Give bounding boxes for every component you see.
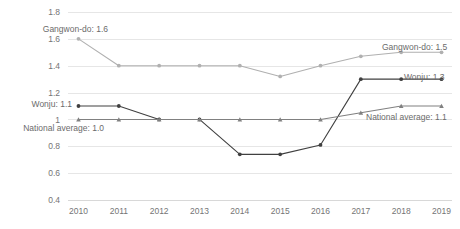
x-axis-tick-label: 2010 bbox=[69, 206, 88, 216]
line-chart: 0.40.60.811.21.41.61.8 20102011201220132… bbox=[0, 0, 460, 229]
y-axis-tick-label: 1.8 bbox=[48, 7, 60, 17]
data-series-group bbox=[76, 37, 444, 156]
y-axis-tick-label: 0.6 bbox=[48, 168, 60, 178]
annotation-national-start: National average: 1.0 bbox=[23, 123, 104, 133]
annotation-wonju-start: Wonju: 1.1 bbox=[32, 99, 73, 109]
data-point-marker bbox=[238, 152, 242, 156]
x-axis-tick-label: 2013 bbox=[190, 206, 209, 216]
y-axis-tick-label: 1.6 bbox=[48, 34, 60, 44]
y-axis-tick-label: 0.8 bbox=[48, 141, 60, 151]
chart-canvas: 0.40.60.811.21.41.61.8 20102011201220132… bbox=[0, 0, 460, 229]
data-point-marker bbox=[117, 104, 121, 108]
data-point-marker bbox=[157, 64, 161, 68]
data-point-marker bbox=[399, 77, 403, 81]
y-axis-tick-label: 1.4 bbox=[48, 61, 60, 71]
x-axis-tick-label: 2016 bbox=[311, 206, 330, 216]
data-point-marker bbox=[278, 152, 282, 156]
data-point-marker bbox=[359, 54, 363, 58]
data-point-marker bbox=[319, 64, 323, 68]
annotation-national-end: National average: 1.1 bbox=[366, 112, 447, 122]
data-point-marker bbox=[278, 75, 282, 79]
data-point-marker bbox=[198, 64, 202, 68]
x-axis-tick-label: 2012 bbox=[150, 206, 169, 216]
data-point-marker bbox=[238, 64, 242, 68]
x-axis-tick-label: 2014 bbox=[230, 206, 249, 216]
annotation-gangwon-start: Gangwon-do: 1.6 bbox=[43, 24, 108, 34]
y-axis-tick-label: 0.4 bbox=[48, 195, 60, 205]
data-point-marker bbox=[319, 143, 323, 147]
x-axis-tick-label: 2011 bbox=[110, 206, 129, 216]
x-axis-tick-label: 2015 bbox=[271, 206, 290, 216]
annotations-group: Gangwon-do: 1.6Wonju: 1.1National averag… bbox=[23, 24, 447, 133]
x-axis-tick-label: 2017 bbox=[351, 206, 370, 216]
x-axis-tick-label: 2019 bbox=[432, 206, 451, 216]
annotation-wonju-end: Wonju: 1.3 bbox=[404, 72, 445, 82]
data-point-marker bbox=[359, 77, 363, 81]
x-axis-tick-label: 2018 bbox=[392, 206, 411, 216]
y-axis-tick-label: 1.2 bbox=[48, 88, 60, 98]
data-point-marker bbox=[77, 104, 81, 108]
data-point-marker bbox=[77, 37, 81, 41]
annotation-gangwon-end: Gangwon-do: 1.5 bbox=[382, 42, 447, 52]
data-point-marker bbox=[117, 64, 121, 68]
gridlines-group bbox=[68, 13, 452, 201]
x-axis-tick-labels: 2010201120122013201420152016201720182019 bbox=[69, 206, 451, 216]
